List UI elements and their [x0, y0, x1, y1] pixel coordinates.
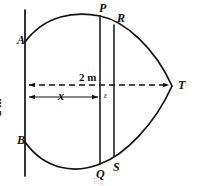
point-label-t: T — [178, 79, 185, 91]
dimension-label-epsilon: ε — [104, 92, 107, 100]
point-label-p: P — [99, 2, 106, 14]
geometry-diagram-svg — [0, 0, 199, 186]
point-label-r: R — [117, 12, 125, 24]
dimension-label-vertical-2m: 2 m — [0, 99, 3, 116]
point-label-a: A — [17, 34, 25, 46]
lower-arc — [25, 86, 172, 169]
point-label-s: S — [113, 161, 120, 173]
figure-caption: Fig. — [0, 178, 199, 186]
point-label-b: B — [17, 134, 25, 146]
dimension-label-x: x — [58, 90, 64, 102]
upper-arc — [25, 14, 172, 86]
figure-container: A B P R Q S T 2 m 2 m x ε Fig. — [0, 0, 199, 186]
dimension-label-horizontal-2m: 2 m — [79, 72, 96, 83]
